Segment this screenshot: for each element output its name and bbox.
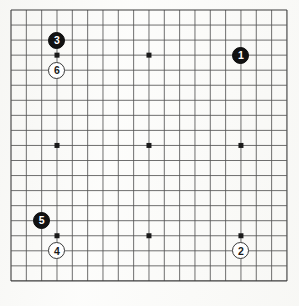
stone-1-black[interactable]: 1 bbox=[232, 47, 249, 64]
stone-5-black[interactable]: 5 bbox=[33, 212, 50, 229]
go-board-figure: 123456 bbox=[0, 0, 299, 306]
stone-move-number: 5 bbox=[39, 215, 45, 226]
stone-6-white[interactable]: 6 bbox=[48, 62, 65, 79]
stone-move-number: 6 bbox=[54, 64, 60, 75]
stone-move-number: 1 bbox=[238, 49, 244, 60]
stone-move-number: 3 bbox=[54, 34, 60, 45]
stone-2-white[interactable]: 2 bbox=[232, 242, 249, 259]
stone-3-black[interactable]: 3 bbox=[48, 32, 65, 49]
stone-layer[interactable]: 123456 bbox=[0, 0, 299, 306]
stone-move-number: 2 bbox=[238, 245, 244, 256]
stone-4-white[interactable]: 4 bbox=[48, 242, 65, 259]
stone-move-number: 4 bbox=[54, 245, 60, 256]
